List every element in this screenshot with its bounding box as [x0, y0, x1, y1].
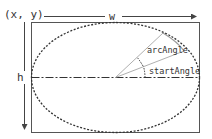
width-label: w [109, 11, 116, 22]
origin-label: (x, y) [4, 8, 44, 21]
start-angle-indicator [144, 67, 146, 78]
start-angle-label: startAngle [149, 66, 200, 76]
arc-diagram: (x, y) w h arcAngle startAngle [0, 0, 212, 139]
height-label: h [17, 71, 24, 84]
arc-angle-indicator [137, 57, 143, 66]
arc-angle-label: arcAngle [147, 45, 188, 55]
